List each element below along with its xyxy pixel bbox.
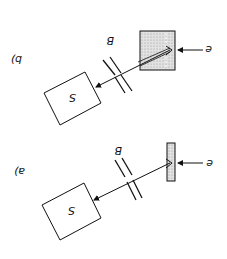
incident-label: e (205, 43, 212, 56)
beam-label: B (114, 144, 122, 157)
source-label: S (68, 204, 75, 217)
source-label: S (69, 91, 76, 104)
panel-label-b: b) (11, 53, 22, 66)
diagram-canvas: b) e B S a) e B (0, 0, 227, 259)
beam-label: B (106, 34, 114, 47)
panel-label-a: a) (14, 165, 25, 178)
incident-label: e (206, 157, 213, 170)
emitted-beam (94, 163, 170, 200)
panel-b: b) e B S (11, 31, 212, 125)
panel-a: a) e B S (14, 143, 213, 240)
slit-line (115, 160, 125, 177)
slit-line (122, 158, 132, 175)
